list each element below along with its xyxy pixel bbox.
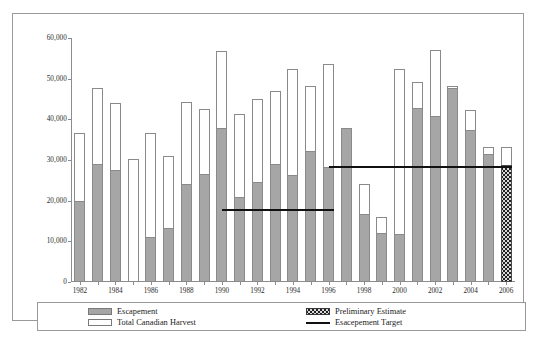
x-tick-mark [382,282,383,285]
target-line-swatch-icon [306,322,330,324]
x-tick-mark [417,282,418,285]
y-tick-label: 10,000 [47,237,67,245]
plot-area: 010,00020,00030,00040,00050,00060,000 19… [71,38,515,282]
bar-group[interactable] [110,103,121,282]
bar-group[interactable] [74,133,85,282]
bar-segment-escapement [252,182,263,282]
x-tick-mark [169,282,170,285]
x-tick-mark [115,282,116,285]
bar-segment-escapement [323,167,334,282]
y-tick-label: 50,000 [47,75,67,83]
bar-group[interactable] [252,99,263,282]
y-tick-label: 40,000 [47,115,67,123]
bar-group[interactable] [394,69,405,282]
y-tick-mark [68,38,71,39]
x-tick-mark [257,282,258,285]
x-tick-label: 1990 [215,287,229,295]
bar-segment-escapement [447,88,458,282]
bar-group[interactable] [305,86,316,282]
x-tick-mark [506,282,507,285]
bar-segment-escapement [359,214,370,282]
x-tick-mark [488,282,489,285]
x-tick-label: 2002 [428,287,442,295]
y-tick-mark [68,119,71,120]
x-tick-mark [98,282,99,285]
bar-segment-escapement [163,228,174,282]
bar-segment-escapement [483,154,494,282]
bar-segment-preliminary-estimate [501,165,512,282]
legend-item-preliminary-estimate: Preliminary Estimate [306,307,406,316]
legend: Escapement Total Canadian Harvest Prelim… [37,302,526,331]
bar-segment-escapement [110,170,121,282]
bar-segment-escapement [270,164,281,282]
bar-group[interactable] [287,69,298,282]
legend-item-total-canadian-harvest: Total Canadian Harvest [88,318,196,327]
bar-group[interactable] [199,109,210,282]
x-tick-mark [311,282,312,285]
escapement-target-line [222,209,334,211]
bar-segment-escapement [376,233,387,282]
x-tick-label: 1996 [321,287,335,295]
y-tick-mark [68,79,71,80]
bar-segment-escapement [74,201,85,282]
x-tick-mark [222,282,223,285]
bar-group[interactable] [181,102,192,282]
x-tick-label: 1988 [179,287,193,295]
legend-item-escapement: Escapement [88,307,157,316]
x-tick-mark [133,282,134,285]
bar-group[interactable] [234,114,245,282]
x-tick-mark [240,282,241,285]
y-tick-label: 60,000 [47,34,67,42]
x-tick-label: 1984 [108,287,122,295]
bar-segment-escapement [412,108,423,282]
bar-segment-escapement [341,128,352,282]
bar-group[interactable] [376,217,387,282]
y-tick-label: 20,000 [47,197,67,205]
y-tick-label: 30,000 [47,156,67,164]
bar-group[interactable] [447,86,458,282]
bar-group[interactable] [359,184,370,282]
y-tick-mark [68,282,71,283]
x-tick-mark [453,282,454,285]
y-axis [71,38,72,282]
bar-segment-escapement [92,164,103,282]
bar-group[interactable] [128,159,139,282]
x-tick-mark [275,282,276,285]
bar-group[interactable] [341,189,352,282]
bar-segment-escapement [465,130,476,282]
bar-group[interactable] [216,51,227,282]
bar-group[interactable] [163,156,174,282]
bar-segment-escapement [181,184,192,282]
bar-group[interactable] [465,110,476,282]
chart-frame: 010,00020,00030,00040,00050,00060,000 19… [12,13,524,321]
x-tick-mark [471,282,472,285]
y-tick-label: 0 [63,278,67,286]
legend-item-escapement-target: Esacepement Target [306,318,402,327]
legend-label-escapement-target: Esacepement Target [335,318,402,327]
x-tick-mark [329,282,330,285]
y-tick-mark [68,201,71,202]
bar-segment-escapement [287,175,298,282]
x-tick-mark [293,282,294,285]
bar-group[interactable] [270,91,281,282]
x-tick-label: 1986 [144,287,158,295]
x-tick-mark [186,282,187,285]
y-tick-mark [68,160,71,161]
x-tick-mark [204,282,205,285]
bar-group[interactable] [92,88,103,282]
figure-container: 010,00020,00030,00040,00050,00060,000 19… [0,0,538,343]
x-tick-label: 1998 [357,287,371,295]
bar-segment-escapement [305,151,316,282]
x-tick-label: 1982 [73,287,87,295]
bar-group[interactable] [323,64,334,282]
bar-segment-total-canadian-harvest [128,159,139,282]
x-tick-mark [80,282,81,285]
x-tick-mark [435,282,436,285]
escapement-swatch-icon [88,308,112,315]
bar-segment-escapement [394,234,405,282]
bar-group[interactable] [412,82,423,282]
x-tick-label: 2000 [392,287,406,295]
y-tick-mark [68,241,71,242]
bar-segment-escapement [216,128,227,282]
bar-group[interactable] [145,133,156,282]
